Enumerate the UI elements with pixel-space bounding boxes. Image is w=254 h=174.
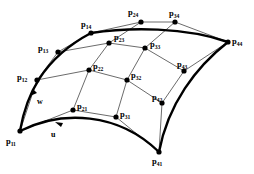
control-point-label-p21: p21	[77, 102, 87, 111]
net-col-1	[20, 110, 159, 152]
boundary-curve-u-bottom	[20, 118, 159, 152]
control-point-label-p34: p34	[169, 9, 179, 18]
control-point-dot-p33[interactable]	[142, 45, 147, 50]
control-point-label-p41: p41	[152, 157, 162, 166]
control-point-dot-p23[interactable]	[106, 40, 111, 45]
control-point-label-p33: p33	[150, 40, 160, 49]
net-col-3	[58, 43, 184, 71]
direction-label-u: u	[51, 131, 55, 139]
control-point-dot-p11[interactable]	[17, 128, 22, 133]
control-point-dot-p32[interactable]	[124, 77, 129, 82]
direction-label-w: w	[37, 98, 43, 106]
control-point-label-p24: p24	[128, 8, 138, 17]
control-point-label-p11: p11	[6, 137, 16, 146]
net-row-4	[159, 42, 228, 152]
control-point-dot-p31[interactable]	[113, 114, 118, 119]
control-point-label-p43: p43	[177, 60, 187, 69]
control-point-dot-p34[interactable]	[172, 19, 177, 24]
bezier-patch-figure: p11 p12 p13 p14 p21 p22 p23 p24 p31 p32 …	[0, 0, 254, 174]
control-point-dot-p13[interactable]	[55, 49, 60, 54]
patch-diagram-canvas	[0, 0, 254, 174]
control-point-dot-p44[interactable]	[225, 39, 230, 44]
control-point-label-p32: p32	[131, 71, 141, 80]
control-point-dot-p22[interactable]	[86, 67, 91, 72]
control-point-label-p31: p31	[120, 110, 130, 119]
net-row-1	[20, 33, 91, 131]
control-point-dot-p12[interactable]	[34, 77, 39, 82]
net-row-3	[116, 22, 175, 117]
boundary-curve-right	[159, 42, 228, 152]
control-point-label-p14: p14	[81, 20, 91, 29]
net-col-4	[91, 22, 228, 42]
control-point-dot-p14[interactable]	[88, 30, 93, 35]
control-point-label-p12: p12	[17, 73, 27, 82]
control-point-label-p44: p44	[232, 37, 242, 46]
u-direction-arrow-icon	[55, 122, 63, 127]
control-point-label-p22: p22	[93, 62, 103, 71]
control-point-dot-p41[interactable]	[156, 149, 161, 154]
net-row-2	[73, 22, 141, 110]
boundary-curve-w-left	[20, 33, 91, 131]
control-point-dots	[17, 19, 230, 154]
control-point-dot-p21[interactable]	[70, 107, 75, 112]
control-point-label-p42: p42	[152, 93, 162, 102]
control-point-label-p13: p13	[38, 44, 48, 53]
control-point-label-p23: p23	[114, 33, 124, 42]
control-point-dot-p24[interactable]	[138, 19, 143, 24]
net-col-2	[37, 70, 162, 103]
